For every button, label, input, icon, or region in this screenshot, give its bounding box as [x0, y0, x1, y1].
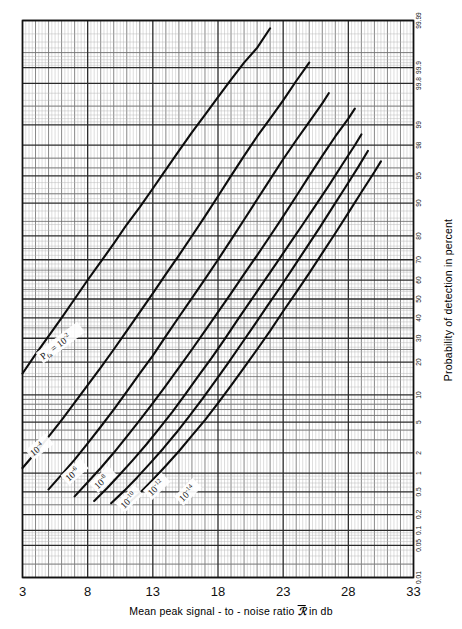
chart-figure: Pfa = 10-210-410-610-810-1010-1210-14 38… [0, 0, 462, 629]
x-tick-33: 33 [406, 584, 420, 599]
y-tick-0.05: 0.05 [415, 539, 422, 552]
y-tick-0.5: 0.5 [415, 487, 422, 496]
y-tick-0.2: 0.2 [415, 510, 422, 519]
y-tick-99.9: 99.9 [415, 61, 422, 74]
y-tick-0.1: 0.1 [415, 525, 422, 534]
y-tick-2: 2 [415, 451, 422, 455]
x-tick-13: 13 [146, 584, 160, 599]
y-tick-40: 40 [415, 314, 422, 322]
y-tick-0.01: 0.01 [415, 571, 422, 584]
x-axis-title-text: Mean peak signal - to - noise ratio ℛ in… [129, 605, 332, 617]
y-tick-30: 30 [415, 334, 422, 342]
y-tick-50: 50 [415, 295, 422, 303]
y-axis-title-text: Probability of detection in percent [442, 219, 454, 381]
x-tick-3: 3 [19, 584, 26, 599]
x-tick-23: 23 [276, 584, 290, 599]
y-tick-98: 98 [415, 141, 422, 149]
y-tick-95: 95 [415, 172, 422, 180]
x-tick-18: 18 [211, 584, 225, 599]
y-tick-60: 60 [415, 276, 422, 284]
x-tick-8: 8 [84, 584, 91, 599]
y-tick-80: 80 [415, 232, 422, 240]
y-tick-1: 1 [415, 471, 422, 475]
y-tick-99.8: 99.8 [415, 77, 422, 90]
y-tick-70: 70 [415, 256, 422, 264]
y-tick-99: 99 [415, 121, 422, 129]
y-tick-99.99: 99.99 [415, 12, 422, 29]
y-tick-10: 10 [415, 391, 422, 399]
y-tick-20: 20 [415, 358, 422, 366]
detection-probability-chart: Pfa = 10-210-410-610-810-1010-1210-14 38… [0, 0, 462, 629]
x-tick-28: 28 [341, 584, 355, 599]
y-tick-90: 90 [415, 199, 422, 207]
x-axis-title: Mean peak signal - to - noise ratio ℛ in… [129, 605, 332, 617]
y-axis-title: Probability of detection in percent [442, 219, 454, 381]
y-tick-5: 5 [415, 420, 422, 424]
